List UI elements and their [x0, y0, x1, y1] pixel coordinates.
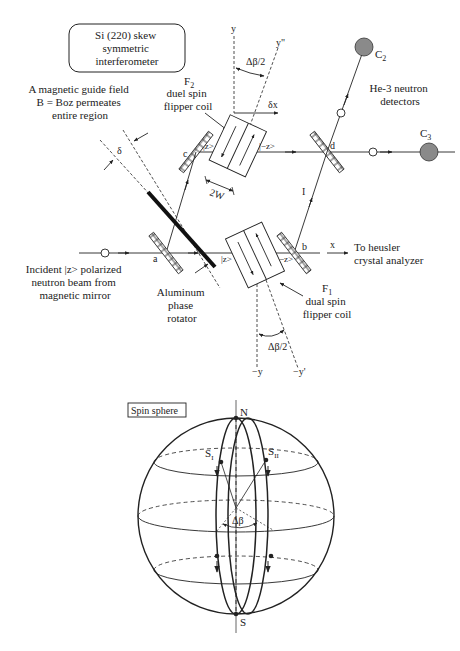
title-box: Si (220) skew symmetric interferometer — [69, 24, 185, 72]
svg-text:Si (220) skew symmetric: Si (220) skew symmetric interferometer — [95, 29, 159, 67]
two-w-dimension: 2W — [205, 176, 234, 202]
spin-sphere: Spin sphere Δβ — [128, 400, 334, 633]
f2-coil — [209, 115, 266, 177]
south-label: S — [240, 616, 246, 628]
svg-text:A magnetic guide field B: A magnetic guide field B = Boz permeates… — [28, 83, 131, 121]
s1-label: SI — [205, 447, 214, 462]
svg-text:He-3 neutron detectors: He-3 neutron detectors — [369, 82, 430, 107]
lower-beam: x — [79, 239, 348, 257]
label-b: b — [302, 241, 307, 252]
title-line-1: Si (220) skew — [95, 29, 156, 42]
ket-negz-top: |−z> — [259, 141, 275, 151]
diagram-canvas: Si (220) skew symmetric interferometer A… — [0, 0, 460, 651]
delta-x-label: δx — [268, 99, 278, 110]
path-i-label: I — [302, 186, 305, 197]
label-a: a — [153, 253, 158, 264]
svg-text:duel spin flipper coil: duel spin flipper coil — [164, 87, 213, 112]
rotator-label: Aluminum phase rotator — [157, 264, 208, 324]
delta-beta-half-top: Δβ/2 — [246, 56, 265, 67]
two-w-label: 2W — [208, 187, 226, 202]
f2-label: F2 duel spin flipper coil — [164, 75, 227, 130]
delta-beta-half-bottom: Δβ/2 — [268, 341, 287, 352]
y-axis-label: y — [231, 23, 236, 34]
svg-text:C3: C3 — [420, 127, 431, 142]
svg-text:C2: C2 — [375, 48, 386, 63]
title-line-2: symmetric — [102, 42, 149, 54]
incident-label: Incident |z> polarized neutron beam from… — [26, 263, 125, 301]
ket-negz-bottom: −z> — [279, 254, 293, 264]
x-axis-label: x — [330, 239, 335, 250]
spin-sphere-title: Spin sphere — [131, 405, 179, 416]
delta-beta-label: Δβ — [232, 515, 244, 526]
detectors-label: He-3 neutron detectors — [369, 82, 430, 107]
beam-to-c2 — [327, 54, 362, 152]
neg-y-label: −y — [252, 366, 263, 377]
y-dprime-label: y" — [276, 37, 285, 48]
delta-label: δ — [117, 145, 122, 156]
detector-c3: C3 — [420, 127, 438, 161]
guide-field-label: A magnetic guide field B = Boz permeates… — [28, 83, 131, 121]
interferometer-diagram: Si (220) skew symmetric interferometer A… — [0, 0, 460, 651]
svg-text:Incident |z> polarized n: Incident |z> polarized neutron beam from… — [26, 263, 125, 301]
bottom-axes: Δβ/2 −y −y' — [252, 280, 306, 377]
label-c: c — [183, 148, 188, 159]
f1-label: F1 dual spin flipper coil — [280, 282, 351, 320]
svg-text:Aluminum phase rot: Aluminum phase rotator — [157, 286, 207, 324]
path-i: I — [294, 152, 327, 253]
neg-y-prime-label: −y' — [293, 366, 306, 377]
s2-label: SII — [268, 445, 279, 460]
f1-coil — [225, 222, 284, 288]
title-line-3: interferometer — [96, 55, 159, 67]
north-label: N — [240, 406, 248, 418]
analyzer-label: To heusler crystal analyzer — [354, 241, 424, 266]
ket-z-bottom: |z> — [221, 254, 232, 264]
svg-text:dual spin flipper coil: dual spin flipper coil — [303, 295, 352, 320]
svg-text:To heusler crystal analy: To heusler crystal analyzer — [354, 241, 424, 266]
